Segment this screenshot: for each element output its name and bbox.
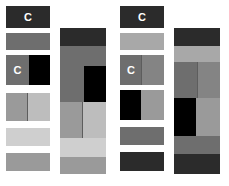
segment-4-right (196, 98, 220, 136)
right-group-tile-1[interactable]: C (120, 6, 164, 28)
segment-1-fill (174, 28, 220, 46)
right-group-tile-6[interactable] (120, 152, 164, 171)
segment-3-right (84, 66, 106, 102)
tile-6-fill (6, 153, 50, 171)
tile-4-right (28, 93, 50, 121)
tile-4-left (6, 93, 28, 121)
segment-6-fill (60, 157, 106, 174)
left-group-tile-5[interactable] (6, 128, 50, 146)
right-group-segment-6[interactable] (174, 154, 220, 174)
tile-2-fill (120, 33, 164, 50)
segment-3-left (60, 66, 84, 102)
tile-5-fill (120, 127, 164, 145)
left-group-tile-3[interactable]: C (6, 55, 50, 85)
left-group-segment-6[interactable] (60, 157, 106, 174)
caption-fragment-1: — (28, 181, 35, 185)
right-group-tile-2[interactable] (120, 33, 164, 50)
tile-3-left (6, 55, 29, 85)
segment-1-fill (60, 28, 106, 46)
segment-5-fill (174, 136, 220, 154)
left-group-tile-1[interactable]: C (6, 6, 50, 28)
figure-canvas: CCCC—- - -- -— (0, 0, 229, 186)
caption-strip: —- - -- -— (0, 176, 229, 186)
right-group-tile-column: CC (114, 0, 166, 186)
tile-2-fill (6, 33, 50, 50)
caption-fragment-4: — (168, 181, 175, 185)
segment-4-left (60, 102, 83, 138)
tile-4-left (120, 90, 141, 120)
right-group: CC (114, 0, 229, 186)
right-group-tile-5[interactable] (120, 127, 164, 145)
right-group-segment-4[interactable] (174, 98, 220, 136)
right-group-tile-3[interactable]: C (120, 55, 164, 85)
segment-3-right (198, 62, 220, 98)
left-group-stack-bar (60, 28, 106, 174)
left-group-tile-column: CC (0, 0, 52, 186)
left-group-segment-3[interactable] (60, 66, 106, 102)
right-group-segment-5[interactable] (174, 136, 220, 154)
tile-5-fill (6, 128, 50, 146)
right-group-segment-2[interactable] (174, 46, 220, 62)
tile-1-fill (120, 6, 164, 28)
right-group-tile-4[interactable] (120, 90, 164, 120)
tile-3-right (142, 55, 164, 85)
caption-fragment-3: - - (140, 181, 147, 185)
segment-3-left (174, 62, 198, 98)
segment-6-fill (174, 154, 220, 174)
segment-5-fill (60, 138, 106, 157)
right-group-segment-3[interactable] (174, 62, 220, 98)
left-group-segment-2[interactable] (60, 46, 106, 66)
tile-3-right (29, 55, 50, 85)
left-group-tile-2[interactable] (6, 33, 50, 50)
tile-1-fill (6, 6, 50, 28)
left-group-tile-6[interactable] (6, 153, 50, 171)
left-group-segment-4[interactable] (60, 102, 106, 138)
right-group-stack-bar (174, 28, 220, 174)
segment-4-left (174, 98, 196, 136)
tile-4-right (141, 90, 164, 120)
left-group-segment-1[interactable] (60, 28, 106, 46)
tile-3-left (120, 55, 142, 85)
segment-2-fill (174, 46, 220, 62)
left-group: CC (0, 0, 115, 186)
caption-fragment-2: - - - (68, 181, 79, 185)
left-group-tile-4[interactable] (6, 93, 50, 121)
segment-4-right (83, 102, 106, 138)
right-group-segment-1[interactable] (174, 28, 220, 46)
tile-6-fill (120, 152, 164, 171)
left-group-segment-5[interactable] (60, 138, 106, 157)
segment-2-fill (60, 46, 106, 66)
